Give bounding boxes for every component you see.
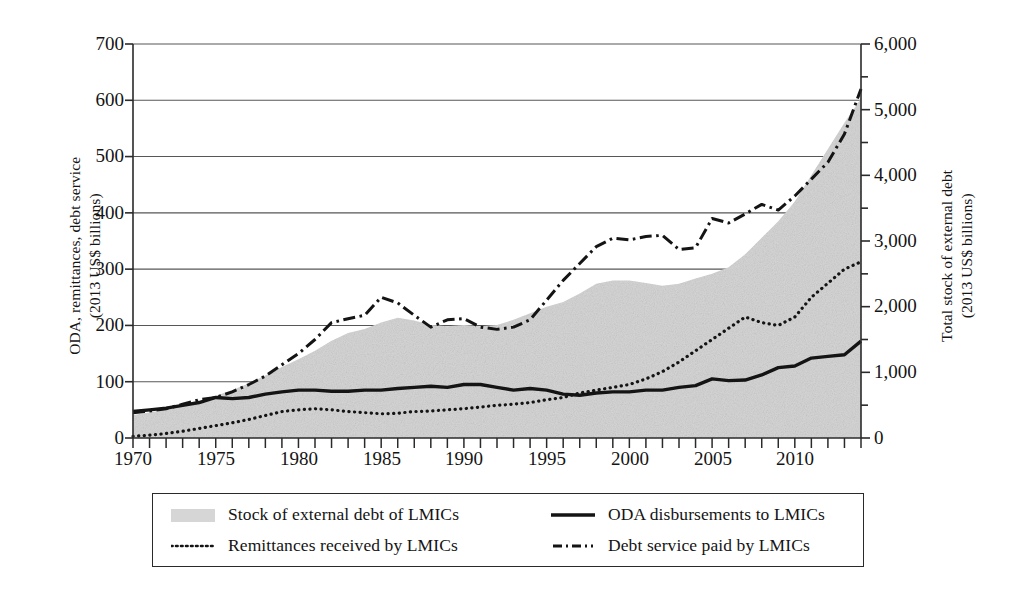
legend-item-oda-disbursements: ODA disbursements to LMICs: [551, 504, 825, 525]
legend: Stock of external debt of LMICs ODA disb…: [152, 493, 864, 567]
legend-item-remittances-received: Remittances received by LMICs: [171, 535, 458, 556]
legend-label-oda-disbursements: ODA disbursements to LMICs: [608, 504, 825, 525]
legend-item-debt-service-paid: Debt service paid by LMICs: [551, 535, 810, 556]
legend-label-debt-service-paid: Debt service paid by LMICs: [608, 535, 810, 556]
legend-label-stock-of-external-debt: Stock of external debt of LMICs: [228, 504, 459, 525]
solid-line-swatch-icon: [551, 507, 595, 523]
area-swatch-icon: [171, 509, 215, 522]
chart-figure: ODA, remittances, debt service (2013 US$…: [0, 0, 1009, 598]
dash-dot-line-swatch-icon: [551, 538, 595, 554]
dotted-line-swatch-icon: [171, 538, 215, 554]
legend-label-remittances-received: Remittances received by LMICs: [228, 535, 458, 556]
legend-item-stock-of-external-debt: Stock of external debt of LMICs: [171, 504, 459, 525]
